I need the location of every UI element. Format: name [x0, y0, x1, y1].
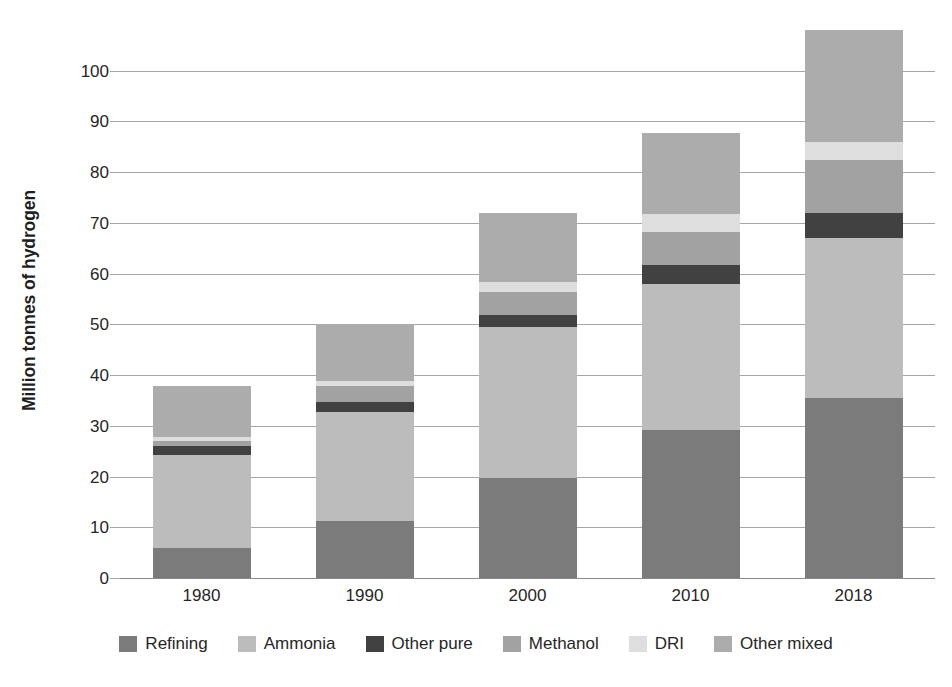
y-axis-tick-label: 40 [90, 367, 109, 384]
bar-segment[interactable] [153, 446, 251, 455]
legend-swatch-icon [238, 636, 256, 652]
plot-area: 0102030405060708090100 [120, 20, 935, 578]
y-axis-tick-label: 70 [90, 214, 109, 231]
bar-segment[interactable] [316, 402, 414, 412]
legend-item[interactable]: Other mixed [714, 634, 833, 654]
bar-segment[interactable] [153, 455, 251, 548]
bar-segment[interactable] [153, 548, 251, 578]
bar-segment[interactable] [642, 430, 740, 578]
stacked-bar-chart: Million tonnes of hydrogen 0102030405060… [0, 0, 952, 687]
y-axis-tick-mark [110, 121, 120, 122]
bar-segment[interactable] [642, 265, 740, 284]
y-axis-tick-label: 80 [90, 164, 109, 181]
x-axis-tick-label: 2018 [835, 586, 873, 606]
bar-group[interactable] [642, 133, 740, 578]
gridline [120, 578, 935, 579]
y-axis-tick-label: 100 [81, 62, 109, 79]
bar-segment[interactable] [642, 284, 740, 430]
legend-swatch-icon [629, 636, 647, 652]
y-axis-tick-label: 50 [90, 316, 109, 333]
bar-segment[interactable] [805, 142, 903, 160]
bar-group[interactable] [805, 30, 903, 578]
legend-swatch-icon [714, 636, 732, 652]
legend-label: Other mixed [740, 634, 833, 654]
bar-segment[interactable] [153, 437, 251, 441]
y-axis-title-text: Million tonnes of hydrogen [19, 190, 40, 411]
bar-segment[interactable] [316, 412, 414, 521]
legend-item[interactable]: DRI [629, 634, 684, 654]
bar-segment[interactable] [642, 232, 740, 265]
legend-item[interactable]: Other pure [366, 634, 473, 654]
x-axis-tick-label: 1980 [183, 586, 221, 606]
legend-swatch-icon [503, 636, 521, 652]
x-axis-tick-label: 1990 [346, 586, 384, 606]
y-axis-tick-mark [110, 527, 120, 528]
bar-segment[interactable] [316, 521, 414, 578]
y-axis-tick-mark [110, 172, 120, 173]
bar-segment[interactable] [316, 324, 414, 381]
y-axis-tick-label: 90 [90, 113, 109, 130]
bars-layer [120, 20, 935, 578]
bar-segment[interactable] [479, 282, 577, 292]
y-axis-tick-mark [110, 324, 120, 325]
bar-segment[interactable] [642, 133, 740, 214]
x-axis-tick-label: 2000 [509, 586, 547, 606]
legend-label: Ammonia [264, 634, 336, 654]
y-axis-tick-mark [110, 375, 120, 376]
x-axis-tick-labels: 19801990200020102018 [120, 586, 935, 616]
y-axis-tick-label: 20 [90, 468, 109, 485]
bar-group[interactable] [153, 386, 251, 578]
y-axis-tick-mark [110, 477, 120, 478]
bar-segment[interactable] [805, 213, 903, 238]
bar-segment[interactable] [805, 160, 903, 213]
y-axis-tick-mark [110, 71, 120, 72]
y-axis-tick-label: 10 [90, 519, 109, 536]
legend-item[interactable]: Refining [119, 634, 207, 654]
y-axis-tick-label: 0 [100, 570, 109, 587]
bar-segment[interactable] [805, 398, 903, 578]
bar-segment[interactable] [316, 381, 414, 386]
x-axis-tick-label: 2010 [672, 586, 710, 606]
bar-segment[interactable] [805, 30, 903, 142]
bar-group[interactable] [316, 324, 414, 578]
bar-segment[interactable] [479, 292, 577, 315]
bar-segment[interactable] [642, 214, 740, 232]
legend-label: Methanol [529, 634, 599, 654]
bar-segment[interactable] [479, 213, 577, 282]
y-axis-tick-mark [110, 426, 120, 427]
y-axis-tick-label: 30 [90, 417, 109, 434]
bar-segment[interactable] [153, 386, 251, 437]
bar-group[interactable] [479, 213, 577, 578]
bar-segment[interactable] [805, 238, 903, 398]
y-axis-tick-mark [110, 274, 120, 275]
legend: RefiningAmmoniaOther pureMethanolDRIOthe… [0, 634, 952, 654]
bar-segment[interactable] [316, 386, 414, 402]
legend-swatch-icon [119, 636, 137, 652]
legend-swatch-icon [366, 636, 384, 652]
legend-label: Refining [145, 634, 207, 654]
legend-label: Other pure [392, 634, 473, 654]
y-axis-tick-mark [110, 578, 120, 579]
legend-item[interactable]: Methanol [503, 634, 599, 654]
bar-segment[interactable] [479, 315, 577, 327]
legend-label: DRI [655, 634, 684, 654]
bar-segment[interactable] [153, 441, 251, 446]
bar-segment[interactable] [479, 478, 577, 578]
y-axis-title: Million tonnes of hydrogen [6, 0, 52, 600]
legend-item[interactable]: Ammonia [238, 634, 336, 654]
y-axis-tick-mark [110, 223, 120, 224]
y-axis-tick-label: 60 [90, 265, 109, 282]
bar-segment[interactable] [479, 327, 577, 478]
